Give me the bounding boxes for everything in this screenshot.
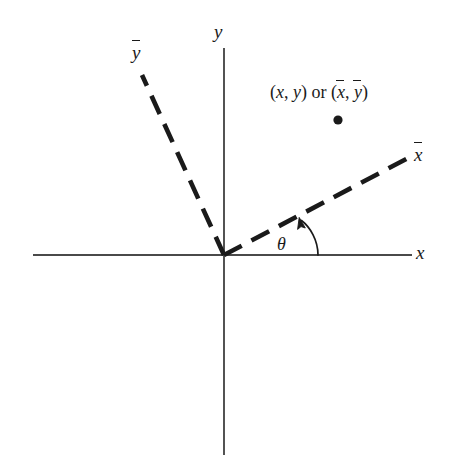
y-axis-label: y: [214, 22, 222, 41]
point-label-comma-2: ,: [345, 82, 354, 102]
point-coordinate-label: (x, y) or (x, y): [270, 83, 368, 101]
point-label-x: x: [276, 82, 284, 102]
ybar-axis-label-text: y: [132, 43, 140, 62]
ybar-axis-label: y: [132, 43, 140, 62]
point-label-y: y: [293, 82, 301, 102]
x-axis-label: x: [416, 243, 424, 262]
point-label-xbar: x: [337, 83, 345, 101]
theta-angle-label: θ: [277, 235, 286, 253]
point-label-or: ) or (: [301, 82, 337, 102]
point-label-close-paren: ): [362, 82, 368, 102]
point-label-ybar: y: [354, 83, 362, 101]
point-label-comma-1: ,: [284, 82, 293, 102]
coordinate-rotation-figure: y x y x θ (x, y) or (x, y): [0, 0, 453, 470]
figure-canvas: [0, 0, 453, 470]
xbar-axis-line: [224, 157, 410, 255]
ybar-axis-line: [142, 75, 224, 255]
xbar-axis-label: x: [414, 145, 422, 164]
xbar-axis-label-text: x: [414, 145, 422, 164]
data-point-marker: [333, 115, 342, 124]
